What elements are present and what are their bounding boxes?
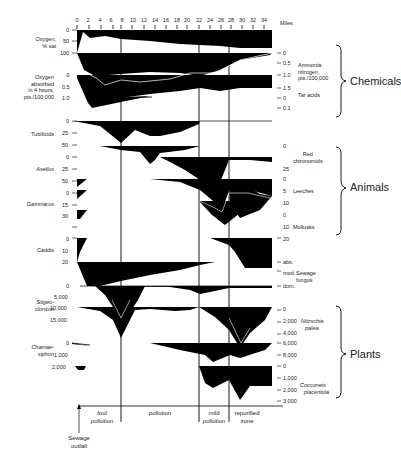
tick: 0.5 xyxy=(283,60,291,66)
mile-tick: 20 xyxy=(184,17,190,23)
tick: 25 xyxy=(283,166,289,172)
tick: .0 xyxy=(65,72,70,78)
label-line: pts./100,000 xyxy=(298,75,328,82)
tick: 2,000 xyxy=(52,364,66,370)
tick: 6,000 xyxy=(283,340,297,346)
tick: 4,000 xyxy=(283,330,297,336)
tick: 10 xyxy=(62,248,68,254)
tick: 3,000 xyxy=(283,398,297,404)
label-asellus: Asellus xyxy=(36,166,54,173)
label-line: foul xyxy=(84,410,120,418)
tick: 0.5 xyxy=(62,84,70,90)
mile-tick: 4 xyxy=(98,17,101,23)
label-line: in 4 hours, xyxy=(24,87,54,94)
oxygen-band xyxy=(77,30,272,76)
tick: 1,000 xyxy=(54,352,68,358)
label-line: chironomids xyxy=(293,158,323,165)
cocconeis-band xyxy=(199,366,272,400)
label-line: % sat xyxy=(36,43,56,50)
label-caddis: Caddis xyxy=(37,247,54,254)
tick: 20 xyxy=(62,259,68,265)
label-line: zone xyxy=(229,418,265,426)
mile-tick: 26 xyxy=(218,17,224,23)
tick: 2,000 xyxy=(283,387,297,393)
miles-unit-label: Miles xyxy=(280,20,293,26)
tick: 25 xyxy=(62,130,68,136)
tick: 50 xyxy=(63,38,69,44)
group-chemicals: Chemicals xyxy=(350,75,401,87)
label-cocconeis-placentula: Cocconeis placentula xyxy=(300,382,329,395)
brace-plants xyxy=(336,306,346,398)
label-line: outfall xyxy=(62,443,96,451)
brace-chemicals xyxy=(336,45,346,117)
zone-repurified: repurified zone xyxy=(229,410,265,425)
label-oxygen: Oxygen, % sat xyxy=(36,36,56,49)
label-line: Cocconeis xyxy=(300,382,329,389)
mile-tick: 30 xyxy=(239,17,245,23)
label-line: siphon xyxy=(31,351,54,358)
tick: 0 xyxy=(283,143,286,149)
label-line: Nitzschia xyxy=(301,318,323,325)
outfall-arrow-icon xyxy=(77,404,81,409)
label-ammonia-nitrogen: Ammonia nitrogen, pts./100,000 xyxy=(298,62,328,82)
tick: 5,000 xyxy=(54,294,68,300)
mile-tick: 14 xyxy=(152,17,158,23)
label-oxygen-absorbed: Oxygen absorbed in 4 hours, pts./100,000 xyxy=(24,74,54,100)
tick: 2,000 xyxy=(283,318,297,324)
tick: 30 xyxy=(62,213,68,219)
tick: 0 xyxy=(66,154,69,160)
mile-tick: 18 xyxy=(174,17,180,23)
label-tar-acids: Tar acids xyxy=(298,92,320,99)
group-plants: Plants xyxy=(350,348,381,360)
tick: 0 xyxy=(66,27,69,33)
tick: 10,000 xyxy=(50,305,67,311)
label-sewage-fungus: Sewage fungus xyxy=(296,270,316,283)
tick: 1,000 xyxy=(283,375,297,381)
mile-tick: 12 xyxy=(141,17,147,23)
label-line: repurified xyxy=(229,410,265,418)
tick: 0 xyxy=(283,306,286,312)
label-line: mild xyxy=(199,410,229,418)
tick: 0 xyxy=(283,50,286,56)
tick: 50 xyxy=(62,178,68,184)
tick: 1.0 xyxy=(283,72,291,78)
tick: 0 xyxy=(66,283,69,289)
label-line: fungus xyxy=(296,277,316,284)
mile-tick: 16 xyxy=(163,17,169,23)
tick: 8,000 xyxy=(283,352,297,358)
label-chamaesiphon: Chamae- siphon xyxy=(31,344,54,357)
zone-pollution: pollution xyxy=(121,410,199,418)
label-nitzschia-palea: Nitzschia palea xyxy=(301,318,323,331)
tick: 0 xyxy=(283,95,286,101)
mile-tick: 22 xyxy=(196,17,202,23)
tick: 20 xyxy=(283,236,289,242)
mile-tick: 24 xyxy=(207,17,213,23)
mile-tick: 0 xyxy=(75,17,78,23)
label-line: palea xyxy=(301,325,323,332)
tick: 0 xyxy=(283,212,286,218)
tick: 50 xyxy=(62,142,68,148)
mile-tick: 28 xyxy=(228,17,234,23)
tick: 0 xyxy=(66,118,69,124)
tick: mod. xyxy=(283,270,295,276)
tick: dom. xyxy=(283,283,295,289)
group-animals: Animals xyxy=(350,181,389,193)
tick: 0 xyxy=(283,176,286,182)
label-mollusks: Mollusks xyxy=(293,224,314,231)
zone-foul-pollution: foul pollution xyxy=(84,410,120,425)
label-line: Oxygen, xyxy=(36,36,56,43)
tick: 100 xyxy=(60,50,69,56)
label-red-chironomids: Red chironomids xyxy=(293,151,323,164)
tick: 0 xyxy=(66,340,69,346)
label-line: pts./100,000 xyxy=(24,94,54,101)
mile-tick: 6 xyxy=(109,17,112,23)
tick: abs. xyxy=(283,259,293,265)
mile-tick: 2 xyxy=(86,17,89,23)
tick: 0 xyxy=(283,363,286,369)
tick: 0 xyxy=(66,190,69,196)
tick: 25 xyxy=(62,166,68,172)
top-axis xyxy=(77,25,264,29)
label-line: pollution xyxy=(84,418,120,426)
label-leeches: Leeches xyxy=(293,188,314,195)
